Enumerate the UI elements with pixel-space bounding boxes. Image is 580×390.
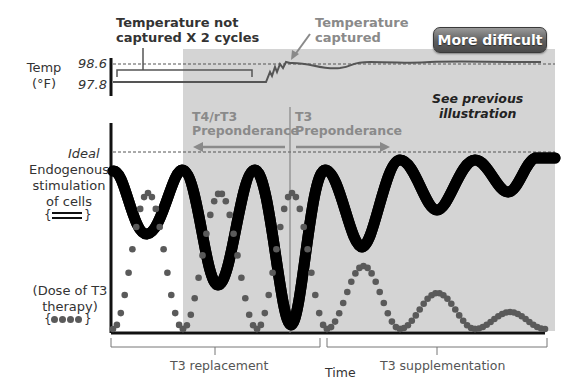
- endogenous-line2: stimulation: [28, 178, 110, 194]
- temp-axis-label-line2: (°F): [24, 76, 64, 92]
- temp-tick-high: 98.6: [78, 56, 107, 71]
- ideal-label: Ideal: [68, 146, 100, 161]
- dose-label-line1: (Dose of T3: [30, 283, 110, 299]
- t4-rt3-preponderance-label: T4/rT3 Preponderance: [192, 110, 299, 138]
- difficulty-badge: More difficult: [433, 27, 547, 53]
- see-previous-note: See previous illustration: [432, 91, 523, 121]
- dose-legend-icon: { }: [44, 313, 94, 327]
- see-previous-line2: illustration: [432, 106, 523, 121]
- annotation-not-captured: Temperature not captured X 2 cycles: [116, 15, 259, 45]
- temp-axis-label: Temp (°F): [24, 60, 64, 92]
- time-axis-label: Time: [325, 365, 356, 380]
- endogenous-legend-icon: { }: [44, 209, 92, 223]
- endogenous-line1: Endogenous: [28, 162, 110, 178]
- phase-t3-replacement: T3 replacement: [170, 358, 268, 373]
- see-previous-line1: See previous: [432, 91, 523, 106]
- annotation-captured: Temperature captured: [315, 15, 409, 45]
- t3-preponderance-label: T3 Preponderance: [295, 110, 402, 138]
- annotation-captured-line1: Temperature: [315, 15, 409, 30]
- t4-label-line2: Preponderance: [192, 124, 299, 138]
- temp-tick-low: 97.8: [78, 77, 107, 92]
- t3-label-line1: T3: [295, 110, 402, 124]
- temp-axis-label-line1: Temp: [24, 60, 64, 76]
- endogenous-line3: of cells: [28, 194, 110, 210]
- t4-label-line1: T4/rT3: [192, 110, 299, 124]
- annotation-not-captured-line2: captured X 2 cycles: [116, 30, 259, 45]
- dose-label: (Dose of T3 therapy): [30, 283, 110, 315]
- t3-label-line2: Preponderance: [295, 124, 402, 138]
- annotation-captured-line2: captured: [315, 30, 409, 45]
- annotation-not-captured-line1: Temperature not: [116, 15, 259, 30]
- phase-t3-supplementation: T3 supplementation: [380, 358, 505, 373]
- endogenous-stimulation-label: Endogenous stimulation of cells: [28, 162, 110, 210]
